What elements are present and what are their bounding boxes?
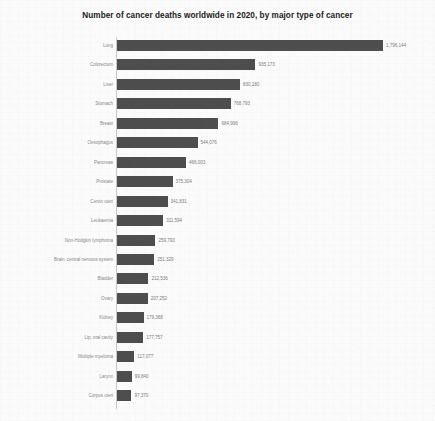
bar — [117, 293, 148, 304]
bar — [117, 351, 134, 362]
bar — [117, 390, 131, 401]
bar-row: Leukaemia311,594 — [0, 215, 435, 226]
category-label: Prostate — [96, 179, 113, 184]
category-label: Stomach — [95, 101, 113, 106]
category-label: Colorectum — [90, 62, 113, 67]
bar-row: Brain, central nervous system251,329 — [0, 254, 435, 265]
bar-row: Stomach768,793 — [0, 98, 435, 109]
bar-value-label: 177,757 — [146, 335, 162, 340]
bar-value-label: 375,304 — [176, 179, 192, 184]
bar-value-label: 684,996 — [221, 121, 237, 126]
bar-row: Pancreas466,003 — [0, 157, 435, 168]
bar-value-label: 259,793 — [158, 238, 174, 243]
bar — [117, 98, 231, 109]
bar-value-label: 207,252 — [151, 296, 167, 301]
bar-value-label: 466,003 — [189, 160, 205, 165]
category-label: Non-Hodgkin lymphoma — [65, 238, 113, 243]
chart-figure: Number of cancer deaths worldwide in 202… — [0, 0, 435, 421]
bar-value-label: 97,370 — [134, 393, 148, 398]
bar-value-label: 341,831 — [171, 199, 187, 204]
bar — [117, 254, 154, 265]
bar-row: Corpus uteri97,370 — [0, 390, 435, 401]
category-label: Breast — [100, 121, 113, 126]
category-label: Cervix uteri — [90, 199, 113, 204]
category-label: Corpus uteri — [89, 393, 113, 398]
bar-value-label: 1,796,144 — [386, 43, 406, 48]
bar-row: Lip, oral cavity177,757 — [0, 332, 435, 343]
bar — [117, 79, 240, 90]
bar — [117, 59, 255, 70]
category-label: Oesophagus — [87, 140, 113, 145]
bar-row: Kidney179,368 — [0, 312, 435, 323]
bar-row: Lung1,796,144 — [0, 40, 435, 51]
bar — [117, 40, 383, 51]
bar — [117, 157, 186, 168]
bar — [117, 137, 198, 148]
category-label: Pancreas — [94, 160, 113, 165]
bar-value-label: 544,076 — [201, 140, 217, 145]
bar-row: Bladder212,536 — [0, 273, 435, 284]
bar-value-label: 99,840 — [135, 374, 149, 379]
category-label: Leukaemia — [91, 218, 113, 223]
bar-value-label: 212,536 — [151, 276, 167, 281]
bar — [117, 118, 218, 129]
category-label: Larynx — [100, 374, 114, 379]
chart-title: Number of cancer deaths worldwide in 202… — [0, 11, 435, 20]
bar — [117, 176, 173, 187]
bar-row: Prostate375,304 — [0, 176, 435, 187]
category-label: Kidney — [99, 315, 113, 320]
bar-row: Multiple myeloma117,077 — [0, 351, 435, 362]
bar-row: Breast684,996 — [0, 118, 435, 129]
bar — [117, 215, 163, 226]
bar — [117, 371, 132, 382]
category-label: Bladder — [98, 276, 113, 281]
bar-value-label: 768,793 — [234, 101, 250, 106]
category-label: Lip, oral cavity — [84, 335, 113, 340]
category-label: Multiple myeloma — [78, 354, 113, 359]
bar-row: Non-Hodgkin lymphoma259,793 — [0, 235, 435, 246]
bar-value-label: 251,329 — [157, 257, 173, 262]
bar — [117, 332, 143, 343]
bar-row: Larynx99,840 — [0, 371, 435, 382]
bar — [117, 273, 148, 284]
bar-row: Colorectum935,173 — [0, 59, 435, 70]
category-label: Brain, central nervous system — [54, 257, 113, 262]
bar-row: Cervix uteri341,831 — [0, 196, 435, 207]
bar-row: Ovary207,252 — [0, 293, 435, 304]
bar — [117, 235, 155, 246]
bar-value-label: 179,368 — [147, 315, 163, 320]
bar-row: Liver830,180 — [0, 79, 435, 90]
category-label: Lung — [103, 43, 113, 48]
category-label: Liver — [103, 82, 113, 87]
bar-value-label: 117,077 — [137, 354, 153, 359]
bar-value-label: 830,180 — [243, 82, 259, 87]
bar — [117, 312, 144, 323]
bar-row: Oesophagus544,076 — [0, 137, 435, 148]
bar-value-label: 935,173 — [258, 62, 274, 67]
plot-area: Lung1,796,144Colorectum935,173Liver830,1… — [0, 34, 435, 412]
bar — [117, 196, 168, 207]
category-label: Ovary — [101, 296, 113, 301]
bar-value-label: 311,594 — [166, 218, 182, 223]
